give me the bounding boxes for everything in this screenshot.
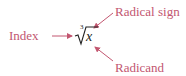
index-label: Index	[9, 29, 39, 42]
radicand-label: Radicand	[115, 61, 164, 74]
radical-sign-label: Radical sign	[115, 5, 180, 18]
radical-index: 3	[80, 23, 84, 31]
radicand-arrow	[95, 47, 113, 61]
radicand-variable: x	[86, 29, 92, 45]
radical-sign-arrow	[94, 13, 113, 28]
